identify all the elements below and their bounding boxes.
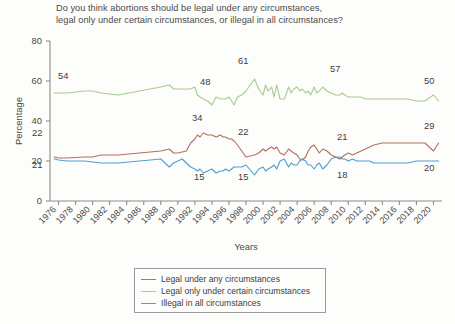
x-tick-label: 2002	[258, 204, 279, 225]
data-label: 61	[238, 55, 248, 66]
x-tick-label: 1986	[122, 204, 143, 225]
x-tick-label: 1978	[54, 204, 75, 225]
data-label: 18	[337, 169, 347, 180]
legend-item[interactable]: Legal only under certain circumstances	[141, 285, 319, 297]
x-tick-label: 2000	[241, 204, 262, 225]
x-tick-label: 2016	[378, 204, 399, 225]
legend-color-swatch-legal-certain	[141, 291, 156, 292]
x-tick-label: 1992	[173, 204, 194, 225]
data-label: 54	[58, 70, 68, 81]
x-tick-label: 2004	[275, 204, 296, 225]
legend-item[interactable]: Legal under any circumstances	[141, 273, 319, 285]
x-tick-label: 1988	[139, 204, 160, 225]
data-label: 48	[200, 76, 210, 87]
x-tick-label: 2018	[395, 204, 416, 225]
series-line	[54, 133, 438, 160]
legend-color-swatch-legal-any	[141, 279, 156, 280]
y-tick-label: 80	[32, 35, 42, 46]
data-label: 57	[330, 63, 340, 74]
legend-label-illegal-all: Illegal in all circumstances	[161, 298, 261, 308]
series-line	[54, 79, 438, 105]
x-axis-ticks: 1976197819801982198419861988199019921994…	[37, 201, 434, 226]
chart-page: Do you think abortions should be legal u…	[0, 0, 455, 324]
data-label: 15	[238, 171, 248, 182]
data-label: 29	[424, 120, 434, 131]
x-tick-label: 1976	[37, 204, 58, 225]
x-tick-label: 1980	[71, 204, 92, 225]
legend-color-swatch-illegal-all	[141, 303, 156, 304]
x-tick-label: 2006	[292, 204, 313, 225]
x-tick-label: 1994	[190, 204, 211, 225]
legend-label-legal-certain: Legal only under certain circumstances	[161, 286, 310, 296]
y-tick-label: 40	[32, 115, 42, 126]
data-label: 22	[238, 126, 248, 137]
y-axis-title: Percentage	[13, 97, 24, 145]
x-axis-title: Years	[234, 241, 258, 252]
x-tick-label: 1998	[224, 204, 245, 225]
data-label: 22	[32, 127, 42, 138]
data-label: 21	[32, 159, 42, 170]
y-tick-label: 0	[37, 195, 42, 206]
y-tick-label: 60	[32, 75, 42, 86]
data-label: 15	[194, 171, 204, 182]
data-label: 20	[424, 162, 434, 173]
x-tick-label: 2014	[361, 204, 382, 225]
x-tick-label: 2010	[326, 204, 347, 225]
legend-label-legal-any: Legal under any circumstances	[161, 274, 280, 284]
x-tick-label: 1990	[156, 204, 177, 225]
x-tick-label: 2008	[309, 204, 330, 225]
legend-item[interactable]: Illegal in all circumstances	[141, 297, 319, 309]
chart-legend: Legal under any circumstances Legal only…	[134, 268, 326, 313]
x-tick-label: 1984	[105, 204, 126, 225]
data-label: 50	[424, 75, 434, 86]
x-tick-label: 1982	[88, 204, 109, 225]
x-tick-label: 2020	[412, 204, 433, 225]
data-label: 34	[192, 112, 202, 123]
x-tick-label: 2012	[343, 204, 364, 225]
x-tick-label: 1996	[207, 204, 228, 225]
data-label: 21	[337, 131, 347, 142]
y-axis-ticks: 020406080	[32, 35, 50, 206]
